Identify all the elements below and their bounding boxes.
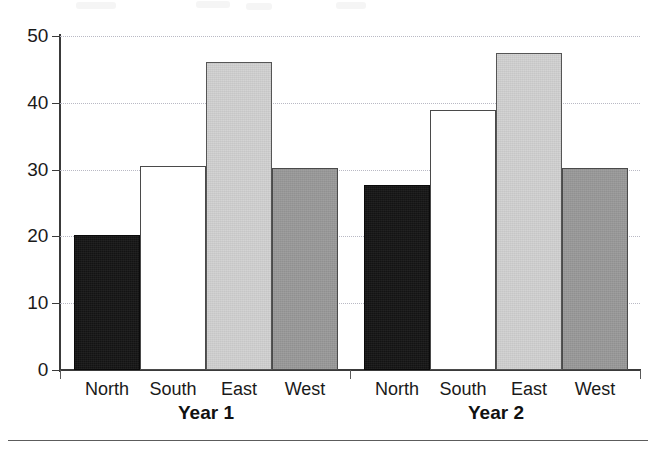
y-axis-tick-mark: [52, 303, 60, 304]
x-axis-category-label: North: [74, 379, 140, 399]
scan-artifact: [196, 1, 230, 8]
bars-layer: [60, 36, 640, 370]
y-axis-tick-label: 0: [4, 360, 48, 379]
y-axis-tick-mark: [52, 103, 60, 104]
x-axis-group-label: Year 2: [426, 402, 566, 423]
x-axis-tick: [60, 370, 61, 379]
bar-year-1-south[interactable]: [140, 166, 206, 370]
y-axis-tick-label: 40: [4, 93, 48, 112]
bar-year-1-west[interactable]: [272, 168, 338, 370]
x-axis-category-label: West: [562, 379, 628, 399]
x-axis-tick: [640, 370, 641, 379]
y-axis-tick-mark: [52, 36, 60, 37]
x-axis-category-label: East: [496, 379, 562, 399]
bar-year-1-north[interactable]: [74, 235, 140, 370]
x-axis-category-label: South: [140, 379, 206, 399]
x-axis-group-label: Year 1: [136, 402, 276, 423]
x-axis-tick: [350, 370, 351, 379]
scan-artifact: [336, 2, 366, 9]
y-axis-tick-label: 20: [4, 226, 48, 245]
x-axis-category-label: West: [272, 379, 338, 399]
y-axis-tick-mark: [52, 236, 60, 237]
y-axis-tick-mark: [52, 370, 60, 371]
bar-year-2-south[interactable]: [430, 110, 496, 370]
bar-year-1-east[interactable]: [206, 62, 272, 370]
x-axis-category-label: South: [430, 379, 496, 399]
y-axis-tick-label: 10: [4, 293, 48, 312]
x-axis-category-label: North: [364, 379, 430, 399]
bar-year-2-west[interactable]: [562, 168, 628, 370]
footer-rule: [8, 440, 648, 441]
scan-artifact: [76, 2, 116, 9]
y-axis-tick-label: 50: [4, 26, 48, 45]
y-axis-tick-mark: [52, 170, 60, 171]
bar-year-2-east[interactable]: [496, 53, 562, 370]
x-axis-category-label: East: [206, 379, 272, 399]
scan-artifact: [246, 3, 272, 10]
chart-figure: 50403020100 NorthSouthEastWestYear 1Nort…: [0, 0, 656, 461]
y-axis-tick-label: 30: [4, 160, 48, 179]
bar-year-2-north[interactable]: [364, 185, 430, 370]
